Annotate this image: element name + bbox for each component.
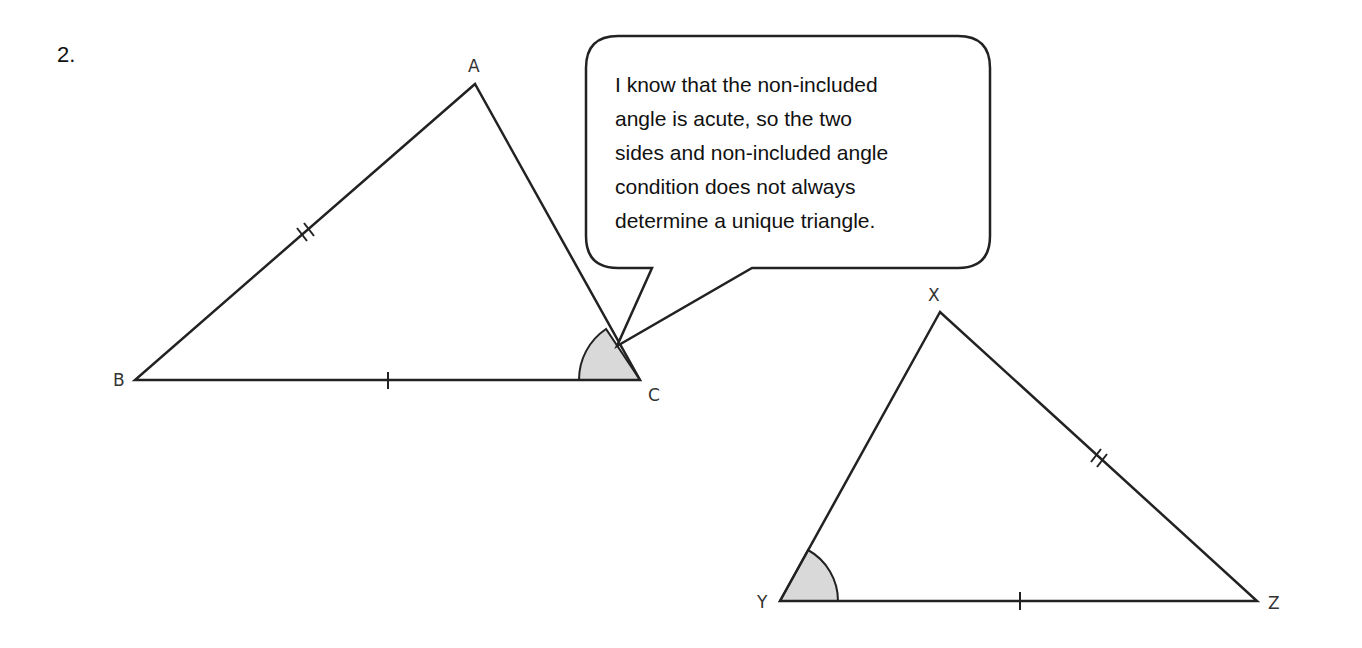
question-number: 2.	[57, 42, 75, 67]
vertex-label-y: Y	[756, 592, 768, 612]
speech-line: determine a unique triangle.	[615, 204, 975, 238]
vertex-label-b: B	[113, 370, 125, 390]
triangle-abc: A B C	[113, 56, 660, 405]
speech-line: angle is acute, so the two	[615, 102, 975, 136]
triangle-abc-outline	[135, 84, 640, 380]
vertex-label-z: Z	[1268, 593, 1280, 613]
speech-line: sides and non-included angle	[615, 136, 975, 170]
vertex-label-x: X	[928, 285, 940, 305]
angle-y-marker	[780, 550, 838, 601]
vertex-label-a: A	[468, 56, 480, 76]
triangle-xyz: X Y Z	[756, 285, 1280, 613]
vertex-label-c: C	[648, 385, 660, 405]
speech-line: I know that the non-included	[615, 68, 975, 102]
triangle-xyz-outline	[780, 312, 1257, 601]
speech-bubble-text: I know that the non-included angle is ac…	[615, 68, 975, 238]
speech-line: condition does not always	[615, 170, 975, 204]
